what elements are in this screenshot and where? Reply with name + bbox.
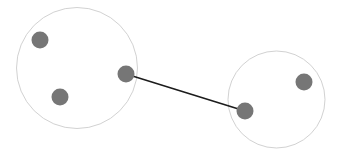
node-left-upper[interactable]: [32, 32, 49, 49]
node-left-bridge[interactable]: [118, 66, 135, 83]
diagram-svg: [0, 0, 338, 160]
node-right-bridge[interactable]: [237, 103, 254, 120]
node-right-outer[interactable]: [296, 74, 313, 91]
node-left-lower[interactable]: [52, 89, 69, 106]
diagram-canvas: [0, 0, 338, 160]
cluster-boundary-right[interactable]: [228, 51, 325, 148]
cluster-boundary-left[interactable]: [17, 8, 138, 129]
